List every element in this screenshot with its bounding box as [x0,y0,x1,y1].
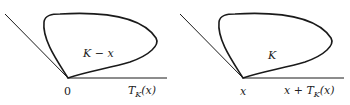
right-vertex-label: x [240,85,246,98]
right-cone-ray-upper [180,14,243,78]
left-set-boundary [44,13,157,78]
right-cone-label-prefix: x + T [284,84,314,97]
left-cone-label: TK(x) [128,84,156,99]
right-panel-figure [180,13,344,78]
right-set-label: K [268,49,276,62]
left-set-label: K − x [83,47,114,60]
right-cone-label-arg: (x) [320,84,335,97]
left-panel-figure [5,13,167,78]
right-set-boundary [219,13,332,78]
left-cone-label-arg: (x) [141,84,156,97]
left-vertex-label: 0 [64,85,71,98]
right-cone-label: x + TK(x) [284,84,335,99]
left-cone-ray-upper [5,14,68,78]
